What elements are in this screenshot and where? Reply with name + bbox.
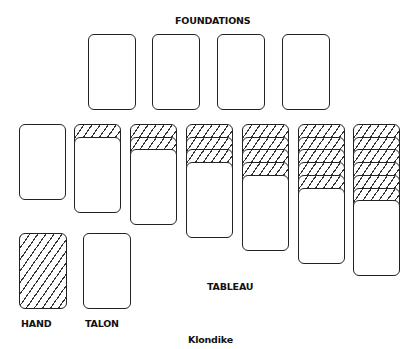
- talon-pile[interactable]: [83, 233, 131, 309]
- foundation-slot-2[interactable]: [152, 34, 200, 110]
- foundation-slot-4[interactable]: [282, 34, 330, 110]
- game-name-label: Klondike: [188, 334, 233, 345]
- foundation-slot-1[interactable]: [88, 34, 136, 110]
- foundations-label: FOUNDATIONS: [175, 15, 250, 26]
- talon-label: TALON: [85, 318, 119, 329]
- face-up-card[interactable]: [19, 124, 66, 200]
- face-up-card[interactable]: [74, 137, 121, 213]
- face-up-card[interactable]: [186, 162, 233, 238]
- face-up-card[interactable]: [298, 188, 345, 264]
- foundation-slot-3[interactable]: [217, 34, 265, 110]
- face-up-card[interactable]: [353, 200, 400, 276]
- hand-label: HAND: [21, 318, 51, 329]
- hand-pile[interactable]: [19, 233, 67, 309]
- face-up-card[interactable]: [242, 175, 289, 251]
- face-up-card[interactable]: [130, 149, 177, 225]
- tableau-label: TABLEAU: [207, 281, 253, 292]
